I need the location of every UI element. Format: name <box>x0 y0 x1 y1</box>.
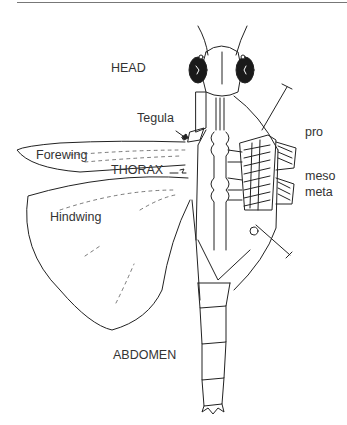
thorax-outline <box>192 96 278 300</box>
spiracle <box>250 227 258 235</box>
hindwing <box>27 177 190 330</box>
label-hindwing: Hindwing <box>50 211 101 224</box>
label-thorax: THORAX <box>111 164 163 177</box>
label-meta: meta <box>305 186 333 199</box>
flight-muscles <box>228 135 296 210</box>
label-abdomen: ABDOMEN <box>113 349 176 362</box>
label-head: HEAD <box>111 62 146 75</box>
ventral-nerve-cord <box>211 98 229 250</box>
tegula <box>176 131 188 140</box>
antennae <box>198 26 247 55</box>
thorax-leader <box>170 169 186 173</box>
label-tegula: Tegula <box>137 112 174 125</box>
abdomen <box>198 283 230 414</box>
label-meso: meso <box>305 170 336 183</box>
label-pro: pro <box>305 126 323 139</box>
label-forewing: Forewing <box>36 149 87 162</box>
